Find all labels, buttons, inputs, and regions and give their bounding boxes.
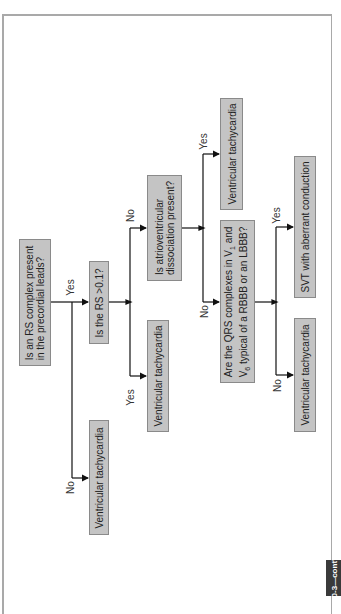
figure-number: 10-3—cont'd: [329, 560, 338, 596]
outcome-vt-q3-yes: Ventricular tachycardia: [220, 98, 243, 210]
node-text: Ventricular tachycardia: [300, 324, 311, 425]
question-rs-interval: Is the RS >0.1?: [89, 261, 109, 344]
outcome-vt-q1-no: Ventricular tachycardia: [89, 420, 109, 535]
node-text: Ventricular tachycardia: [226, 103, 237, 204]
node-text: Are the QRS complexes in V: [223, 250, 234, 377]
node-text: Ventricular tachycardia: [153, 325, 164, 426]
outcome-vt-q4-no: Ventricular tachycardia: [294, 318, 316, 432]
node-text: Ventricular tachycardia: [94, 427, 105, 528]
edge-label-q4-yes: Yes: [271, 207, 282, 223]
node-text: typical of a RBBB or an LBBB?: [238, 226, 249, 366]
edge-label-q4-no: No: [272, 379, 283, 392]
node-text: in the precordial leads?: [35, 245, 46, 360]
node-text: Is the RS >0.1?: [94, 268, 105, 337]
node-text: Is atrioventricular: [154, 181, 165, 275]
edge-label-q2-no: No: [125, 209, 136, 222]
edge-label-q3-yes: Yes: [198, 133, 209, 149]
node-text: SVT with aberrant conduction: [300, 161, 311, 292]
edge-label-q1-no: No: [65, 481, 76, 494]
edge-label-q1-yes: Yes: [65, 279, 76, 295]
question-rs-complex: Is an RS complex present in the precordi…: [19, 239, 51, 366]
question-av-dissociation: Is atrioventricular dissociation present…: [147, 175, 182, 281]
figure-number-tab: 10-3—cont'd: [326, 560, 341, 596]
node-text: V: [238, 370, 249, 377]
outcome-vt-q2-yes: Ventricular tachycardia: [147, 320, 169, 432]
edge-label-q3-no: No: [199, 305, 210, 318]
node-text: Is an RS complex present: [24, 245, 35, 360]
node-text: dissociation present?: [165, 181, 176, 275]
question-qrs-bundle-branch: Are the QRS complexes in V1 and V6 typic…: [220, 220, 255, 383]
subscript: 6: [244, 366, 251, 370]
edge-label-q2-yes: Yes: [125, 389, 136, 405]
node-text: and: [223, 226, 234, 245]
outcome-svt-aberrant: SVT with aberrant conduction: [294, 156, 316, 298]
